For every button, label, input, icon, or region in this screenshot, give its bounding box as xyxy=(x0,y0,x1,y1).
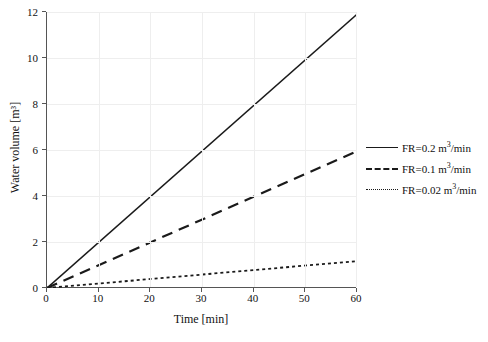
legend-swatch-solid-icon xyxy=(366,142,398,152)
gridline-y-8 xyxy=(47,104,356,105)
ytick-mark-6 xyxy=(42,149,46,150)
xtick-label-50: 50 xyxy=(284,292,324,304)
legend-item-fr-0-02[interactable]: FR=0.02 m3/min xyxy=(366,178,486,199)
xtick-label-10: 10 xyxy=(78,292,118,304)
ytick-label-2: 2 xyxy=(8,236,38,248)
xtick-label-60: 60 xyxy=(336,292,376,304)
legend-item-fr-0-1[interactable]: FR=0.1 m3/min xyxy=(366,157,486,178)
gridline-y-10 xyxy=(47,58,356,59)
legend: FR=0.2 m3/min FR=0.1 m3/min FR=0.02 m3/m… xyxy=(366,136,486,199)
gridline-x-60 xyxy=(356,12,357,287)
ytick-mark-12 xyxy=(42,11,46,12)
gridline-y-4 xyxy=(47,196,356,197)
xtick-label-20: 20 xyxy=(129,292,169,304)
gridline-y-2 xyxy=(47,242,356,243)
plot-area xyxy=(46,12,356,288)
ytick-mark-0 xyxy=(42,287,46,288)
y-axis-label: Water volume [m³] xyxy=(8,58,23,238)
gridline-y-12 xyxy=(47,12,356,13)
gridline-y-6 xyxy=(47,150,356,151)
legend-label-fr-0-1: FR=0.1 m3/min xyxy=(402,159,471,176)
ytick-mark-8 xyxy=(42,103,46,104)
legend-item-fr-0-2[interactable]: FR=0.2 m3/min xyxy=(366,136,486,157)
ytick-label-0: 0 xyxy=(8,282,38,294)
xtick-label-30: 30 xyxy=(181,292,221,304)
legend-swatch-dotted-icon xyxy=(366,184,398,194)
legend-label-fr-0-2: FR=0.2 m3/min xyxy=(402,138,471,155)
legend-label-fr-0-02: FR=0.02 m3/min xyxy=(402,180,476,197)
ytick-mark-10 xyxy=(42,57,46,58)
plot-inner xyxy=(47,12,356,287)
ytick-mark-4 xyxy=(42,195,46,196)
xtick-label-40: 40 xyxy=(233,292,273,304)
ytick-mark-2 xyxy=(42,241,46,242)
ytick-label-12: 12 xyxy=(8,6,38,18)
legend-swatch-dashed-icon xyxy=(366,163,398,173)
x-axis-label: Time [min] xyxy=(46,312,356,327)
water-volume-line-chart: 0 10 20 30 40 50 60 0 2 4 6 8 10 12 Time… xyxy=(0,0,488,342)
